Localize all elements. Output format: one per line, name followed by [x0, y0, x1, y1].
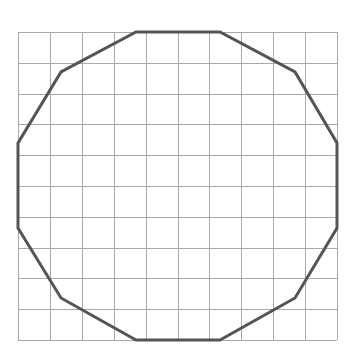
grid-polygon-diagram: [0, 0, 358, 360]
grid: [18, 32, 338, 341]
diagram-canvas: [0, 0, 358, 360]
